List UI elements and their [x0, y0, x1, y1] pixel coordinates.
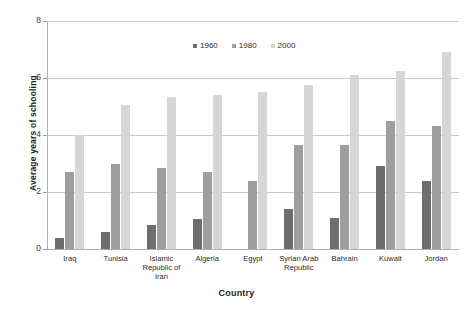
bar-syrian-arab-republic-1960[interactable] [284, 209, 293, 249]
bar-group [413, 21, 459, 249]
y-axis-tick-label: 2 [15, 186, 41, 196]
x-axis-line [47, 249, 459, 250]
bar-stack [367, 21, 413, 249]
y-axis-tick-mark [43, 249, 47, 250]
x-axis-title: Country [0, 288, 473, 298]
bar-jordan-1960[interactable] [422, 181, 431, 249]
bar-algeria-2000[interactable] [213, 95, 222, 249]
x-axis-tick-line: Iran [131, 272, 191, 281]
bar-bahrain-1960[interactable] [330, 218, 339, 249]
y-axis-tick-label: 6 [15, 72, 41, 82]
bar-algeria-1960[interactable] [193, 219, 202, 249]
y-axis-tick-label: 4 [15, 129, 41, 139]
bar-kuwait-1960[interactable] [376, 166, 385, 249]
y-axis-tick-label: 0 [15, 243, 41, 253]
bar-stack [93, 21, 139, 249]
bar-islamic-republic-of-iran-1960[interactable] [147, 225, 156, 249]
bar-bahrain-2000[interactable] [350, 75, 359, 249]
bar-islamic-republic-of-iran-2000[interactable] [167, 97, 176, 249]
bar-iraq-1980[interactable] [65, 172, 74, 249]
bar-stack [276, 21, 322, 249]
bar-jordan-2000[interactable] [442, 52, 451, 249]
bar-group [93, 21, 139, 249]
bar-group [230, 21, 276, 249]
bar-group [367, 21, 413, 249]
bar-bahrain-1980[interactable] [340, 145, 349, 249]
bar-stack [139, 21, 185, 249]
bar-stack [230, 21, 276, 249]
y-axis-tick-label: 8 [15, 15, 41, 25]
bar-egypt-1980[interactable] [248, 181, 257, 249]
x-axis-tick-line: Jordan [406, 254, 466, 263]
bar-tunisia-1980[interactable] [111, 164, 120, 250]
bar-islamic-republic-of-iran-1980[interactable] [157, 168, 166, 249]
bar-group [322, 21, 368, 249]
x-axis-tick-line: Republic of [131, 263, 191, 272]
bar-stack [413, 21, 459, 249]
bar-stack [47, 21, 93, 249]
bar-group [276, 21, 322, 249]
bar-jordan-1980[interactable] [432, 126, 441, 249]
bar-iraq-2000[interactable] [75, 135, 84, 249]
bar-kuwait-2000[interactable] [396, 71, 405, 249]
bar-iraq-1960[interactable] [55, 238, 64, 249]
chart-figure: Average years of schooling Country 19601… [0, 0, 473, 314]
bar-algeria-1980[interactable] [203, 172, 212, 249]
bar-tunisia-2000[interactable] [121, 105, 130, 249]
bar-stack [322, 21, 368, 249]
plot-area: 02468IraqTunisiaIslamicRepublic ofIranAl… [47, 21, 459, 249]
x-axis-tick-line: Republic [269, 263, 329, 272]
bar-syrian-arab-republic-2000[interactable] [304, 85, 313, 249]
x-axis-tick-label: Jordan [406, 254, 466, 263]
bar-egypt-2000[interactable] [258, 92, 267, 249]
bar-stack [184, 21, 230, 249]
bar-group [184, 21, 230, 249]
bar-syrian-arab-republic-1980[interactable] [294, 145, 303, 249]
bar-tunisia-1960[interactable] [101, 232, 110, 249]
bar-group [47, 21, 93, 249]
bar-group [139, 21, 185, 249]
bar-kuwait-1980[interactable] [386, 121, 395, 249]
